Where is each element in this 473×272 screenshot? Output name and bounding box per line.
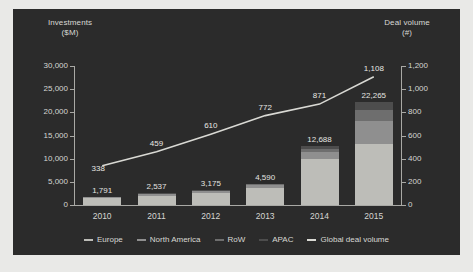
right-tick-label: 1,000 [408, 85, 454, 93]
right-tick-label: 1,200 [408, 62, 454, 70]
legend-item[interactable]: RoW [215, 235, 246, 244]
line-series [75, 66, 401, 205]
right-tick [402, 136, 406, 137]
left-tick-label: 5,000 [22, 178, 68, 186]
legend-swatch-icon [84, 239, 93, 241]
legend-item[interactable]: Europe [84, 235, 123, 244]
left-tick-label: 25,000 [22, 85, 68, 93]
right-axis-title: Deal volume (#) [364, 18, 450, 38]
legend-swatch-icon [307, 239, 316, 241]
legend-swatch-icon [137, 239, 146, 241]
line-value-label: 338 [91, 164, 104, 173]
left-tick [70, 66, 74, 67]
left-tick [70, 159, 74, 160]
left-tick-label: 20,000 [22, 108, 68, 116]
left-tick [70, 205, 74, 206]
left-axis-title-line2: ($M) [27, 28, 113, 38]
left-tick-label: 30,000 [22, 62, 68, 70]
right-tick [402, 205, 406, 206]
left-tick [70, 136, 74, 137]
plot-area: 05,00010,00015,00020,00025,00030,000 020… [75, 66, 401, 205]
category-label-2013: 2013 [238, 211, 292, 221]
line-value-label: 610 [204, 121, 217, 130]
legend-item[interactable]: Global deal volume [307, 235, 388, 244]
legend-label: RoW [228, 235, 246, 244]
right-tick-label: 0 [408, 201, 454, 209]
left-tick-label: 10,000 [22, 155, 68, 163]
right-tick [402, 159, 406, 160]
legend-label: Global deal volume [320, 235, 388, 244]
legend-swatch-icon [259, 239, 268, 241]
right-tick-label: 800 [408, 108, 454, 116]
line-value-label: 772 [258, 103, 271, 112]
legend-swatch-icon [215, 239, 224, 241]
category-label-2015: 2015 [347, 211, 401, 221]
legend-label: APAC [272, 235, 293, 244]
right-tick-label: 600 [408, 132, 454, 140]
legend-item[interactable]: North America [137, 235, 201, 244]
right-axis-title-line1: Deal volume [364, 18, 450, 28]
legend-item[interactable]: APAC [259, 235, 293, 244]
right-tick-label: 200 [408, 178, 454, 186]
global-deal-volume-line [102, 77, 374, 166]
chart-figure: Investments ($M) Deal volume (#) 05,0001… [13, 9, 460, 255]
x-axis-baseline [74, 205, 402, 206]
chart-legend: EuropeNorth AmericaRoWAPACGlobal deal vo… [13, 235, 460, 244]
left-tick [70, 89, 74, 90]
line-value-label: 871 [313, 91, 326, 100]
left-tick [70, 112, 74, 113]
legend-label: North America [150, 235, 201, 244]
category-label-2014: 2014 [293, 211, 347, 221]
left-tick [70, 182, 74, 183]
left-tick-label: 15,000 [22, 132, 68, 140]
left-axis-title: Investments ($M) [27, 18, 113, 38]
category-label-2011: 2011 [130, 211, 184, 221]
right-tick [402, 89, 406, 90]
left-axis-title-line1: Investments [27, 18, 113, 28]
category-label-2012: 2012 [184, 211, 238, 221]
left-tick-label: 0 [22, 201, 68, 209]
line-value-label: 1,108 [364, 64, 384, 73]
legend-label: Europe [97, 235, 123, 244]
right-tick-label: 400 [408, 155, 454, 163]
right-axis-title-line2: (#) [364, 28, 450, 38]
right-tick [402, 112, 406, 113]
right-tick [402, 66, 406, 67]
category-label-2010: 2010 [75, 211, 129, 221]
right-tick [402, 182, 406, 183]
line-value-label: 459 [150, 139, 163, 148]
